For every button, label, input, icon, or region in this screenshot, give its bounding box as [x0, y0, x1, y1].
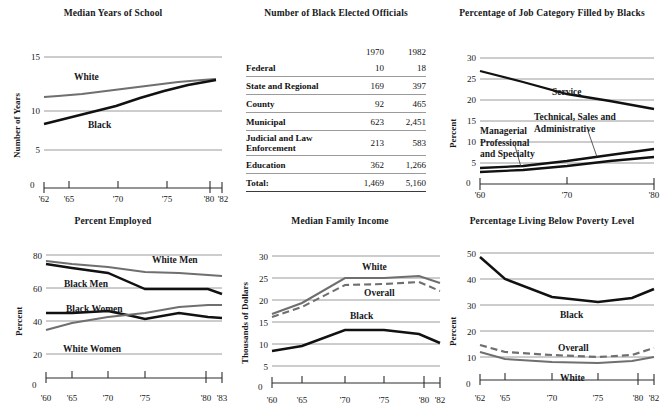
y-tick-label: 20 [246, 296, 268, 306]
x-tick-label: '70 [106, 194, 130, 204]
x-tick-label: '70 [96, 393, 120, 403]
series-label-black: Black [88, 120, 111, 130]
x-tick-label: '62 [32, 194, 56, 204]
cell-1970: 92 [344, 95, 384, 113]
y-tick-label: 20 [454, 95, 476, 105]
row-label: County [246, 95, 344, 113]
y-tick-label: 30 [454, 53, 476, 63]
row-label: Municipal [246, 113, 344, 131]
table-total-row: Total: 1,469 5,160 [246, 174, 426, 192]
y-tick-label: 5 [18, 145, 40, 155]
table-row: County 92 465 [246, 95, 426, 113]
cell-1982: 1,266 [384, 156, 426, 174]
panel-title: Number of Black Elected Officials [232, 8, 440, 18]
y-tick-label: 60 [20, 284, 42, 294]
x-tick-label: '75 [372, 395, 396, 405]
y-tick-label: 10 [246, 340, 268, 350]
panel-median-years-of-school: Median Years of School Number of Years 1… [0, 8, 226, 208]
cell-total-1970: 1,469 [344, 174, 384, 192]
y-tick-label: 5 [454, 158, 476, 168]
x-tick-label: '60 [260, 395, 284, 405]
x-tick-label: '83 [210, 393, 234, 403]
y-tick-label: 80 [20, 251, 42, 261]
panel-title: Percentage of Job Category Filled by Bla… [440, 8, 664, 18]
col-header-1970: 1970 [344, 44, 384, 59]
y-tick-label: 40 [454, 275, 476, 285]
cell-1970: 10 [344, 59, 384, 77]
y-tick-label: 15 [18, 52, 40, 62]
x-tick-label: '75 [155, 194, 179, 204]
panel-median-family-income: Median Family Income Thousands of Dollar… [232, 216, 448, 408]
y-axis-zero-label: 0 [32, 380, 37, 390]
series-label-black-women: Black Women [66, 304, 123, 314]
x-tick-label: '70 [555, 190, 579, 200]
series-label-black: Black [350, 311, 373, 321]
x-tick-label: '65 [493, 393, 517, 403]
panel-living-below-poverty-level: Percentage Living Below Poverty Level Pe… [440, 216, 664, 408]
y-tick-label: 25 [246, 274, 268, 284]
cell-1982: 465 [384, 95, 426, 113]
row-label: Education [246, 156, 344, 174]
y-tick-label: 20 [20, 350, 42, 360]
series-label-white-men: White Men [152, 255, 198, 265]
table-header-row: 1970 1982 [246, 44, 426, 59]
y-axis-zero-label: 0 [258, 382, 263, 392]
y-tick-label: 20 [454, 327, 476, 337]
series-label-technical-sales-administrative: Technical, Sales and Administrative [534, 112, 616, 135]
panel-title: Percentage Living Below Poverty Level [440, 216, 664, 226]
series-label-overall: Overall [558, 343, 589, 353]
series-label-black-men: Black Men [64, 279, 108, 289]
panel-title: Median Family Income [232, 216, 448, 226]
cell-1982: 583 [384, 131, 426, 156]
col-header-1982: 1982 [384, 44, 426, 59]
y-tick-label: 5 [246, 362, 268, 372]
cell-1982: 18 [384, 59, 426, 77]
y-tick-label: 40 [20, 317, 42, 327]
x-tick-label: '75 [133, 393, 157, 403]
table-row: Municipal 623 2,451 [246, 113, 426, 131]
table-row: State and Regional 169 397 [246, 77, 426, 95]
y-tick-label: 50 [454, 249, 476, 259]
series-label-black: Black [560, 310, 583, 320]
y-tick-label: 10 [18, 106, 40, 116]
x-tick-label: '62 [468, 393, 492, 403]
cell-1970: 213 [344, 131, 384, 156]
x-tick-label: '80 [642, 190, 664, 200]
y-tick-label: 30 [454, 301, 476, 311]
y-tick-label: 15 [454, 116, 476, 126]
y-axis-zero-label: 0 [466, 379, 471, 389]
y-tick-label: 10 [454, 137, 476, 147]
x-tick-label: '65 [57, 194, 81, 204]
series-label-white: White [362, 262, 387, 272]
y-tick-label: 15 [246, 318, 268, 328]
row-label: State and Regional [246, 77, 344, 95]
series-label-overall: Overall [364, 288, 395, 298]
panel-black-elected-officials: Number of Black Elected Officials 1970 1… [232, 8, 440, 208]
y-axis-zero-label: 0 [466, 178, 471, 188]
figure-sheet: Median Years of School Number of Years 1… [0, 0, 664, 408]
cell-1970: 362 [344, 156, 384, 174]
row-label: Federal [246, 59, 344, 77]
panel-title: Median Years of School [0, 8, 226, 18]
series-label-white: White [74, 72, 99, 82]
table-row: Education 362 1,266 [246, 156, 426, 174]
series-label-managerial-professional-specialty: Managerial Professional and Specialty [480, 126, 538, 161]
y-tick-label: 30 [246, 252, 268, 262]
table-row: Judicial and Law Enforcement 213 583 [246, 131, 426, 156]
series-label-white-women: White Women [63, 344, 121, 354]
series-label-white: White [560, 373, 585, 383]
x-tick-label: '82 [642, 393, 664, 403]
series-label-service: Service [552, 87, 582, 97]
panel-title: Percent Employed [0, 216, 226, 226]
y-tick-label: 10 [454, 353, 476, 363]
x-tick-label: '60 [34, 393, 58, 403]
x-tick-label: '60 [468, 190, 492, 200]
x-tick-label: '75 [586, 393, 610, 403]
x-tick-label: '70 [540, 393, 564, 403]
panel-job-category-filled-by-blacks: Percentage of Job Category Filled by Bla… [440, 8, 664, 208]
cell-1970: 623 [344, 113, 384, 131]
table-row: Federal 10 18 [246, 59, 426, 77]
plot-area [44, 38, 222, 198]
cell-1970: 169 [344, 77, 384, 95]
cell-1982: 397 [384, 77, 426, 95]
